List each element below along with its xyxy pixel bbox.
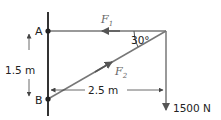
force-diagram: A B F1 F2 30° 1.5 m 2.5 m 1500 N xyxy=(0,0,221,120)
pin-a xyxy=(45,28,50,33)
angle-label: 30° xyxy=(131,34,150,46)
dim-vertical-label: 1.5 m xyxy=(5,64,35,76)
label-b: B xyxy=(35,94,43,107)
f2-arrow-icon xyxy=(95,62,112,72)
pin-b xyxy=(45,96,50,101)
label-a: A xyxy=(35,25,43,38)
load-label: 1500 N xyxy=(173,102,211,114)
dim-horizontal-label: 2.5 m xyxy=(88,84,118,96)
label-f2: F2 xyxy=(114,65,128,80)
label-f1: F1 xyxy=(100,13,113,28)
